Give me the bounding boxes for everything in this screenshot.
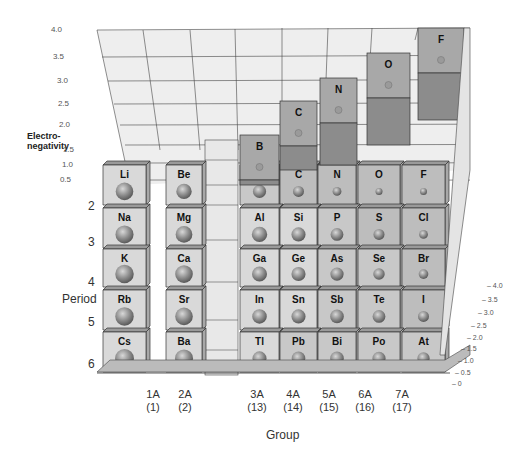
- block-top: [103, 245, 150, 249]
- block-top: [358, 204, 404, 208]
- block-side: [146, 245, 150, 287]
- group-tick-label: 4A(14): [278, 388, 308, 414]
- element-block-n: N: [320, 78, 357, 165]
- block-top: [280, 328, 321, 332]
- element-symbol: O: [385, 59, 393, 70]
- element-block-ge: Ge: [280, 245, 321, 287]
- block-top: [103, 328, 150, 332]
- element-symbol: F: [438, 34, 444, 45]
- right-tick-label: – 3.5: [482, 296, 498, 303]
- transition-metal-gap: [205, 140, 238, 375]
- element-symbol: I: [422, 294, 425, 305]
- block-top: [166, 245, 206, 249]
- block-top: [280, 204, 321, 208]
- element-symbol: Sb: [331, 294, 344, 305]
- atom-sphere-icon: [419, 269, 429, 279]
- element-block-s: S: [358, 204, 404, 248]
- element-block-sn: Sn: [280, 286, 321, 330]
- element-symbol: Ga: [253, 253, 267, 264]
- atom-sphere-icon: [176, 184, 191, 199]
- element-symbol: Bi: [332, 336, 342, 347]
- element-symbol: C: [295, 169, 302, 180]
- block-top: [240, 245, 283, 249]
- element-block-ca: Ca: [166, 245, 206, 287]
- block-top: [358, 161, 404, 165]
- atom-sphere-icon: [438, 57, 445, 64]
- group-tick-label: 2A(2): [170, 388, 200, 414]
- group-tick-label: 1A(1): [138, 388, 168, 414]
- period-tick-label: 3: [88, 235, 95, 249]
- right-tick-label: – 0.5: [455, 369, 471, 376]
- element-symbol: Cl: [419, 212, 429, 223]
- period-tick-label: 5: [88, 315, 95, 329]
- right-tick-label: – 1.5: [461, 345, 477, 352]
- block-top: [318, 204, 360, 208]
- element-block-si: Si: [280, 204, 321, 248]
- atom-sphere-icon: [115, 307, 133, 325]
- right-tick-label: – 1.0: [458, 357, 474, 364]
- element-symbol: At: [418, 336, 429, 347]
- element-symbol: F: [420, 169, 426, 180]
- element-symbol: As: [331, 253, 344, 264]
- electronegativity-3d-chart: LiBeBCNOFNaMgAlSiPSClKCaGaGeAsSeBrRbSrIn…: [0, 0, 515, 455]
- block-top: [402, 245, 449, 249]
- block-top: [103, 286, 150, 290]
- block-side: [202, 245, 206, 287]
- atom-sphere-icon: [252, 267, 267, 282]
- block-top: [318, 286, 360, 290]
- atom-sphere-icon: [420, 188, 427, 195]
- element-symbol: Po: [373, 336, 386, 347]
- y-tick-label: 2.5: [39, 99, 69, 108]
- atom-sphere-icon: [373, 310, 386, 323]
- y-tick-label: 3.5: [34, 52, 64, 61]
- element-block-b: B: [240, 135, 279, 185]
- element-symbol: Sr: [179, 294, 190, 305]
- atom-sphere-icon: [256, 164, 263, 171]
- block-side: [146, 161, 150, 205]
- element-block-br: Br: [402, 245, 449, 287]
- block-side: [202, 286, 206, 330]
- atom-sphere-icon: [330, 267, 343, 280]
- block-side: [146, 286, 150, 330]
- element-symbol: Br: [418, 253, 429, 264]
- period-tick-label: 6: [88, 357, 95, 371]
- element-symbol: Ba: [178, 336, 191, 347]
- period-tick-label: 4: [88, 275, 95, 289]
- element-block-o: O: [358, 161, 404, 205]
- block-top: [318, 328, 360, 332]
- atom-sphere-icon: [295, 130, 302, 137]
- right-tick-label: – 3.0: [478, 309, 494, 316]
- element-block-al: Al: [240, 204, 283, 248]
- atom-sphere-icon: [419, 230, 428, 239]
- atom-sphere-icon: [175, 308, 193, 326]
- block-top: [358, 286, 404, 290]
- block-top: [240, 204, 283, 208]
- element-symbol: C: [295, 107, 302, 118]
- element-block-ga: Ga: [240, 245, 283, 287]
- atom-sphere-icon: [374, 229, 385, 240]
- element-symbol: Be: [178, 169, 191, 180]
- block-top: [358, 245, 404, 249]
- element-symbol: Pb: [292, 336, 305, 347]
- element-block-as: As: [318, 245, 360, 287]
- atom-sphere-icon: [176, 226, 193, 243]
- atom-sphere-icon: [291, 227, 305, 241]
- element-block-f: F: [418, 28, 464, 120]
- element-block-n: N: [318, 161, 360, 205]
- atom-sphere-icon: [252, 227, 267, 242]
- atom-sphere-icon: [333, 187, 342, 196]
- atom-sphere-icon: [418, 311, 429, 322]
- element-symbol: Na: [118, 212, 131, 223]
- y-tick-label: 0.5: [41, 175, 71, 184]
- element-symbol: Se: [373, 253, 386, 264]
- atom-sphere-icon: [175, 265, 193, 283]
- atom-sphere-icon: [330, 310, 344, 324]
- period-axis-title: Period: [62, 292, 97, 306]
- element-symbol: In: [255, 294, 264, 305]
- period-tick-label: 2: [88, 199, 95, 213]
- block-side: [202, 204, 206, 248]
- atom-sphere-icon: [253, 185, 266, 198]
- atom-sphere-icon: [376, 188, 383, 195]
- element-block-o: O: [367, 53, 410, 145]
- element-block-f: F: [402, 161, 449, 205]
